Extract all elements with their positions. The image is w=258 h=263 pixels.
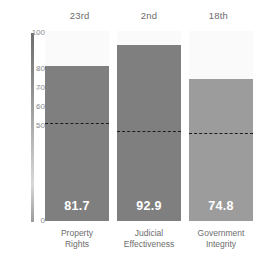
rank-label-government-integrity: 18th (184, 8, 253, 24)
y-tick-label-60: 60 (23, 103, 45, 111)
y-tick-mark-50 (36, 126, 41, 127)
category-label-government-integrity-line1: Government (186, 228, 256, 239)
bar-value-government-integrity: 74.8 (189, 199, 253, 213)
category-label-judicial-effectiveness-line2: Effectiveness (114, 239, 184, 250)
y-tick-label-70: 70 (23, 84, 45, 92)
rank-label-row: 23rd 2nd 18th (45, 8, 253, 24)
y-tick-label-100: 100 (23, 29, 45, 37)
y-tick-mark-60 (36, 107, 41, 108)
bar-value-property-rights: 81.7 (45, 199, 109, 213)
category-label-government-integrity: Government Integrity (185, 228, 257, 250)
category-label-row: Property Rights Judicial Effectiveness G… (41, 228, 257, 250)
rank-label-judicial-effectiveness: 2nd (114, 8, 183, 24)
category-label-government-integrity-line2: Integrity (186, 239, 256, 250)
bar-columns: 81.7 92.9 74.8 (45, 31, 253, 221)
category-label-judicial-effectiveness: Judicial Effectiveness (113, 228, 185, 250)
bar-chart: 23rd 2nd 18th 100 80 70 60 50 0 (0, 0, 258, 263)
y-tick-mark-100 (36, 33, 41, 34)
category-label-judicial-effectiveness-line1: Judicial (114, 228, 184, 239)
category-label-property-rights: Property Rights (41, 228, 113, 250)
bar-judicial-effectiveness: 92.9 (117, 45, 181, 222)
bar-column-judicial-effectiveness: 92.9 (117, 31, 181, 221)
y-tick-mark-80 (36, 69, 41, 70)
bar-value-judicial-effectiveness: 92.9 (117, 199, 181, 213)
y-tick-label-50: 50 (23, 122, 45, 130)
reference-line-government-integrity (189, 133, 253, 134)
category-label-property-rights-line1: Property (42, 228, 112, 239)
y-tick-mark-70 (36, 88, 41, 89)
bar-column-government-integrity: 74.8 (189, 31, 253, 221)
bar-property-rights: 81.7 (45, 66, 109, 221)
y-tick-label-0: 0 (23, 217, 45, 225)
plot-area: 100 80 70 60 50 0 81.7 (0, 31, 258, 223)
category-label-property-rights-line2: Rights (42, 239, 112, 250)
rank-label-property-rights: 23rd (45, 8, 114, 24)
reference-line-property-rights (45, 123, 109, 124)
y-tick-label-80: 80 (23, 65, 45, 73)
bar-column-property-rights: 81.7 (45, 31, 109, 221)
reference-line-judicial-effectiveness (117, 131, 181, 132)
bar-government-integrity: 74.8 (189, 79, 253, 221)
